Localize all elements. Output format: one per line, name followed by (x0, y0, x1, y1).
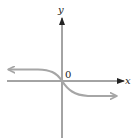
y-axis-label: y (58, 5, 64, 15)
curve-left-branch (9, 70, 62, 82)
origin-label: 0 (65, 70, 71, 80)
x-axis-label: x (125, 76, 131, 86)
curve-right-branch (62, 81, 116, 96)
